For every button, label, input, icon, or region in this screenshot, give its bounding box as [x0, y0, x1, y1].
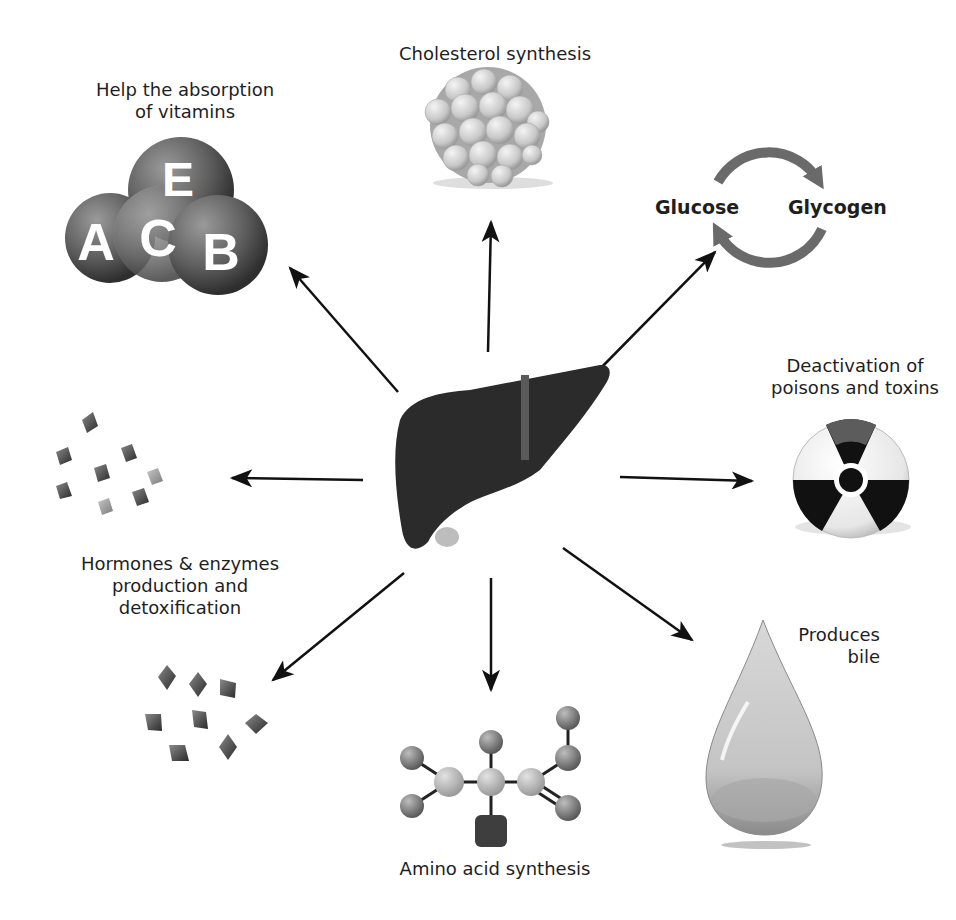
- label-glycogen: Glycogen: [788, 196, 887, 218]
- label-hormones-line1: Hormones & enzymes: [55, 553, 305, 575]
- arrow-to-hormones-left: [232, 478, 363, 480]
- label-cholesterol-text: Cholesterol synthesis: [399, 43, 591, 64]
- arrow-to-toxins: [620, 477, 752, 481]
- svg-text:A: A: [77, 213, 115, 271]
- label-toxins-line2: poisons and toxins: [755, 377, 955, 399]
- arrow-to-vitamins: [290, 268, 398, 392]
- label-toxins-line1: Deactivation of: [755, 355, 955, 377]
- arrow-to-glycogen: [594, 252, 715, 375]
- label-bile: Produces bile: [770, 624, 880, 668]
- svg-text:B: B: [202, 223, 240, 281]
- label-vitamins-line2: of vitamins: [60, 101, 310, 123]
- label-bile-line2: bile: [770, 646, 880, 668]
- label-glucose: Glucose: [655, 196, 739, 218]
- svg-text:C: C: [139, 209, 177, 267]
- arrow-to-cholesterol: [488, 222, 491, 352]
- label-cholesterol: Cholesterol synthesis: [370, 43, 620, 65]
- diagram-canvas: E A C B: [0, 0, 956, 920]
- liver-icon: [395, 365, 610, 549]
- crystals-icon-upper: [56, 412, 163, 515]
- label-amino: Amino acid synthesis: [370, 858, 620, 880]
- label-vitamins-line1: Help the absorption: [60, 79, 310, 101]
- radiation-symbol-icon: [793, 419, 911, 538]
- label-bile-line1: Produces: [770, 624, 880, 646]
- molecule-icon: [400, 706, 581, 847]
- vitamin-spheres-icon: E A C B: [65, 137, 268, 295]
- label-toxins: Deactivation of poisons and toxins: [755, 355, 955, 399]
- svg-text:E: E: [162, 153, 194, 206]
- label-glycogen-text: Glycogen: [788, 196, 887, 218]
- label-vitamins: Help the absorption of vitamins: [60, 79, 310, 123]
- label-hormones-line3: detoxification: [55, 597, 305, 619]
- label-glucose-text: Glucose: [655, 196, 739, 218]
- crystals-icon-lower: [145, 665, 268, 761]
- label-amino-text: Amino acid synthesis: [400, 858, 591, 879]
- label-hormones-line2: production and: [55, 575, 305, 597]
- label-hormones: Hormones & enzymes production and detoxi…: [55, 553, 305, 619]
- cholesterol-cluster-icon: [425, 67, 553, 189]
- arrow-to-bile: [563, 548, 692, 640]
